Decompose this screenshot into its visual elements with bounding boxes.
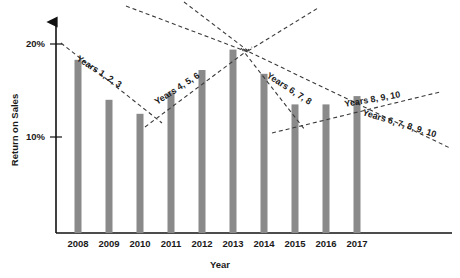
x-tick-label-2009: 2009 xyxy=(98,238,119,249)
bar-2016 xyxy=(323,104,330,233)
x-axis-tick-labels: 2008200920102011201220132014201520162017 xyxy=(67,238,367,249)
chart-canvas: 20% 10% Return on Sales Year 20082009201… xyxy=(0,0,460,278)
bar-2017 xyxy=(354,96,361,233)
bar-2008 xyxy=(75,60,82,233)
x-tick-label-2008: 2008 xyxy=(67,238,88,249)
y-tick-label-10: 10% xyxy=(26,131,46,142)
x-tick-label-2016: 2016 xyxy=(315,238,336,249)
trend-line-aux-5 xyxy=(126,6,248,52)
y-tick-label-20: 20% xyxy=(26,38,46,49)
bar-chart-figure: 20% 10% Return on Sales Year 20082009201… xyxy=(0,0,460,278)
trend-label-years-4-5-6: Years 4, 5, 6 xyxy=(153,70,202,106)
bar-2010 xyxy=(137,114,144,233)
bar-2012 xyxy=(199,70,206,233)
y-axis-title: Return on Sales xyxy=(9,94,20,166)
trend-label-years-8-9-10: Years 8, 9, 10 xyxy=(344,89,401,109)
bar-2015 xyxy=(292,104,299,233)
trend-line-aux-7 xyxy=(248,8,318,51)
x-tick-label-2011: 2011 xyxy=(161,238,182,249)
trend-label-years-6-7-8-9-10: Years 6, 7, 8, 9, 10 xyxy=(361,107,437,139)
trend-label-years-1-2-3: Years 1, 2, 3 xyxy=(75,53,124,89)
bar-2013 xyxy=(230,50,237,233)
x-tick-label-2017: 2017 xyxy=(346,238,367,249)
x-tick-label-2015: 2015 xyxy=(284,238,306,249)
trend-labels-group: Years 1, 2, 3Years 4, 5, 6Years 6, 7, 8Y… xyxy=(75,53,438,139)
trend-line-aux-6 xyxy=(184,2,247,50)
x-tick-label-2014: 2014 xyxy=(253,238,275,249)
bar-2009 xyxy=(106,100,113,233)
bar-2014 xyxy=(261,74,268,233)
x-tick-label-2010: 2010 xyxy=(129,238,150,249)
x-tick-label-2012: 2012 xyxy=(191,238,212,249)
bar-2011 xyxy=(168,92,175,233)
x-axis-title: Year xyxy=(210,259,230,270)
x-tick-label-2013: 2013 xyxy=(222,238,243,249)
